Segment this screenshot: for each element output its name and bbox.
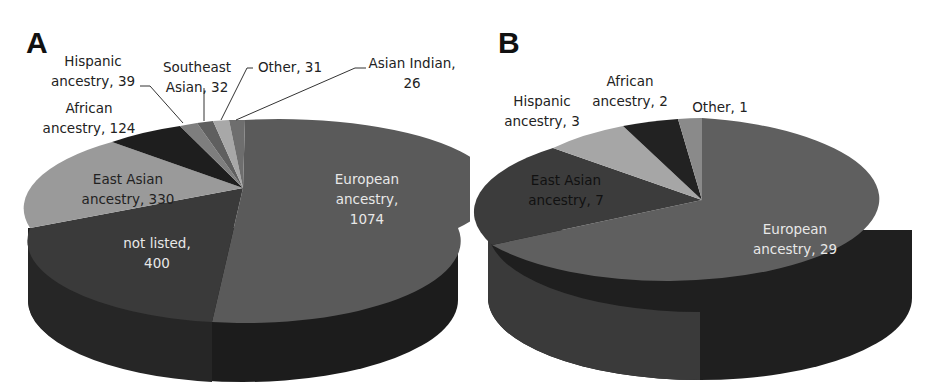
label-african-2: ancestry, 2: [592, 93, 668, 109]
pie-chart-a: European ancestry, 1074 not listed, 400 …: [0, 0, 470, 389]
label-other: Other, 31: [258, 59, 322, 75]
label-european-1: European: [763, 221, 827, 237]
label-asian-indian-1: Asian Indian,: [368, 55, 455, 71]
pie-chart-b: European ancestry, 29 East Asian ancestr…: [470, 0, 937, 389]
label-not-listed-1: not listed,: [123, 235, 190, 251]
label-southeast-asian-1: Southeast: [163, 59, 231, 75]
label-european-1: European: [335, 171, 399, 187]
label-european-2: ancestry, 29: [753, 241, 837, 257]
label-hispanic-2: ancestry, 39: [51, 73, 135, 89]
panel-b: B European ancestry, 29 East Asian ances…: [470, 0, 937, 389]
label-european-3: 1074: [350, 211, 384, 227]
label-other: Other, 1: [692, 99, 748, 115]
label-african-2: ancestry, 124: [43, 120, 136, 136]
panel-a: A European ancestry, 1074: [0, 0, 470, 389]
label-east-asian-2: ancestry, 7: [528, 192, 604, 208]
label-hispanic-2: ancestry, 3: [504, 113, 580, 129]
label-southeast-asian-2: Asian, 32: [166, 79, 229, 95]
leader-lines-a: [140, 68, 366, 123]
label-hispanic-1: Hispanic: [513, 93, 571, 109]
label-east-asian-1: East Asian: [531, 172, 601, 188]
label-european-2: ancestry,: [336, 191, 399, 207]
label-hispanic-1: Hispanic: [64, 53, 122, 69]
label-east-asian-2: ancestry, 330: [82, 191, 175, 207]
label-african-1: African: [65, 100, 112, 116]
label-not-listed-2: 400: [144, 255, 170, 271]
label-asian-indian-2: 26: [403, 75, 420, 91]
label-east-asian-1: East Asian: [93, 171, 163, 187]
label-african-1: African: [606, 73, 653, 89]
